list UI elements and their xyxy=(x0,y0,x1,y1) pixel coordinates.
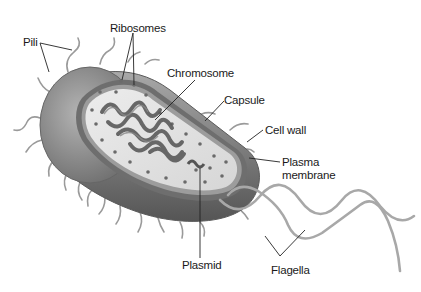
label-cell-wall: Cell wall xyxy=(265,124,306,137)
label-plasmid: Plasmid xyxy=(182,259,222,272)
label-plasma-membrane-2: membrane xyxy=(282,169,335,182)
prokaryotic-cell-diagram xyxy=(0,0,421,292)
label-flagella: Flagella xyxy=(271,264,310,277)
label-chromosome: Chromosome xyxy=(167,67,234,80)
label-pili: Pili xyxy=(23,36,38,49)
label-plasma-membrane-1: Plasma xyxy=(282,156,319,169)
label-capsule: Capsule xyxy=(224,94,265,107)
label-ribosomes: Ribosomes xyxy=(110,22,166,35)
